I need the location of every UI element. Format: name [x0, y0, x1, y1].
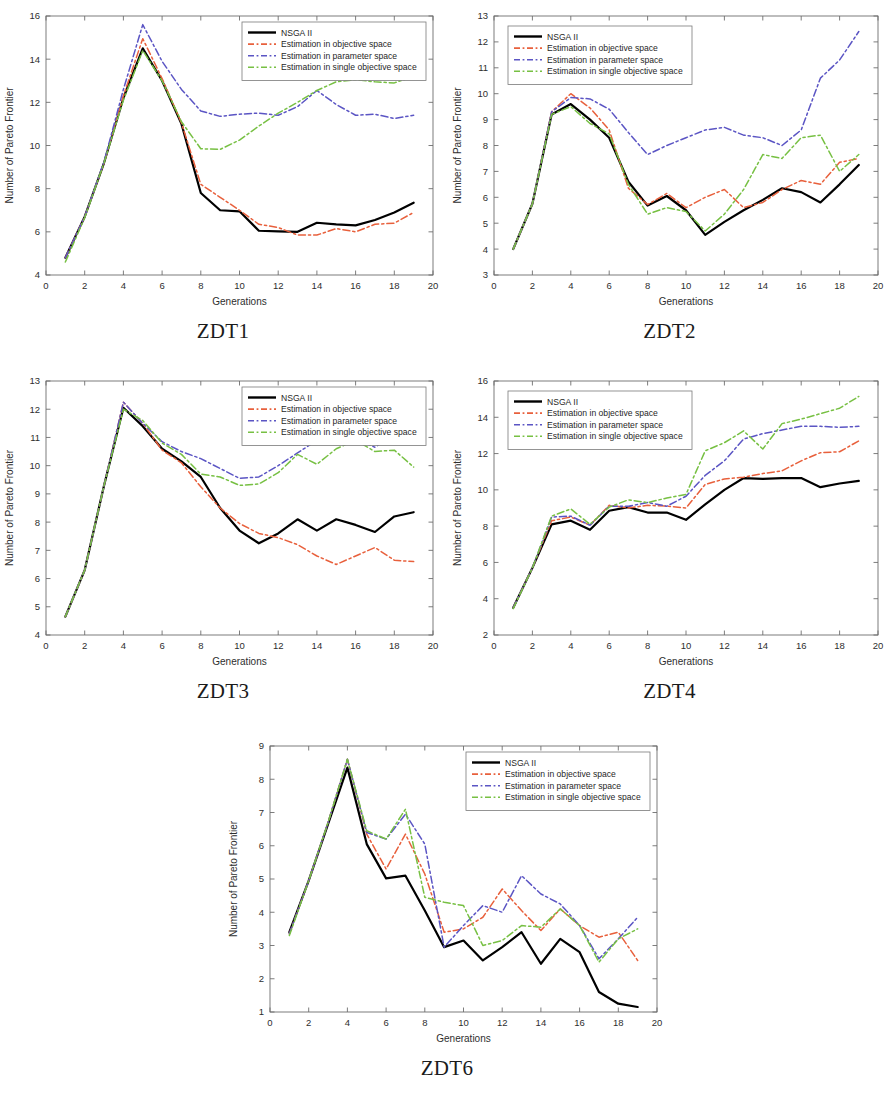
y-tick-label: 8	[35, 183, 40, 194]
figure-grid: 0246810121416182046810121416GenerationsN…	[0, 0, 891, 1106]
y-tick-label: 5	[259, 873, 264, 884]
caption-zdt1: ZDT1	[0, 319, 446, 344]
x-tick-label: 8	[198, 280, 203, 291]
y-tick-label: 6	[259, 840, 264, 851]
y-tick-label: 6	[35, 226, 40, 237]
x-tick-label: 16	[350, 280, 361, 291]
x-tick-label: 2	[82, 640, 87, 651]
y-tick-label: 12	[477, 448, 488, 459]
x-tick-label: 8	[422, 1017, 427, 1028]
x-tick-label: 0	[267, 1017, 272, 1028]
y-tick-label: 14	[477, 412, 488, 423]
y-tick-label: 4	[35, 269, 40, 280]
x-tick-label: 16	[350, 640, 361, 651]
y-tick-label: 2	[483, 629, 488, 640]
x-tick-label: 4	[121, 640, 126, 651]
y-axis-title: Number of Pareto Frontier	[4, 87, 15, 204]
y-tick-label: 6	[483, 557, 488, 568]
chart-legend: NSGA IIEstimation in objective spaceEsti…	[242, 22, 426, 80]
y-tick-label: 7	[483, 166, 488, 177]
x-tick-label: 8	[198, 640, 203, 651]
x-axis-title: Generations	[659, 296, 713, 307]
chart-panel-zdt2: 02468101214161820345678910111213Generati…	[448, 2, 891, 362]
chart-legend: NSGA IIEstimation in objective spaceEsti…	[508, 26, 692, 84]
y-tick-label: 13	[29, 375, 40, 386]
x-tick-label: 4	[568, 280, 573, 291]
legend-label-0: NSGA II	[547, 397, 578, 407]
chart-svg-zdt2: 02468101214161820345678910111213Generati…	[448, 2, 891, 317]
x-tick-label: 12	[273, 280, 284, 291]
legend-label-0: NSGA II	[547, 32, 578, 42]
caption-zdt2: ZDT2	[448, 319, 891, 344]
plot-area-zdt1: 0246810121416182046810121416GenerationsN…	[0, 2, 446, 317]
y-tick-label: 9	[35, 488, 40, 499]
y-tick-label: 3	[259, 940, 264, 951]
x-tick-label: 18	[389, 280, 400, 291]
x-tick-label: 14	[536, 1017, 547, 1028]
x-tick-label: 20	[428, 280, 439, 291]
y-tick-label: 11	[30, 432, 40, 443]
x-tick-label: 10	[234, 640, 245, 651]
y-tick-label: 7	[35, 545, 40, 556]
y-tick-label: 12	[29, 404, 40, 415]
x-tick-label: 0	[491, 640, 496, 651]
chart-panel-zdt3: 0246810121416182045678910111213Generatio…	[0, 367, 446, 722]
x-tick-label: 10	[234, 280, 245, 291]
plot-area-zdt6: 02468101214161820123456789GenerationsNum…	[224, 732, 670, 1054]
caption-zdt3: ZDT3	[0, 679, 446, 704]
x-tick-label: 2	[82, 280, 87, 291]
x-tick-label: 4	[345, 1017, 350, 1028]
x-tick-label: 0	[43, 280, 48, 291]
y-tick-label: 4	[483, 244, 488, 255]
y-tick-label: 8	[483, 521, 488, 532]
x-axis-title: Generations	[212, 656, 266, 667]
legend-label-2: Estimation in parameter space	[505, 781, 621, 791]
x-tick-label: 20	[428, 640, 439, 651]
legend-label-1: Estimation in objective space	[281, 404, 392, 414]
y-tick-label: 14	[29, 54, 40, 65]
y-tick-label: 5	[35, 601, 40, 612]
x-tick-label: 16	[796, 280, 807, 291]
x-tick-label: 10	[458, 1017, 469, 1028]
chart-svg-zdt1: 0246810121416182046810121416GenerationsN…	[0, 2, 446, 317]
y-tick-label: 7	[259, 807, 264, 818]
x-tick-label: 12	[497, 1017, 508, 1028]
y-tick-label: 16	[29, 10, 40, 21]
y-tick-label: 8	[35, 517, 40, 528]
x-tick-label: 4	[568, 640, 573, 651]
chart-legend: NSGA IIEstimation in objective spaceEsti…	[242, 387, 426, 445]
legend-label-3: Estimation in single objective space	[505, 792, 641, 802]
legend-label-2: Estimation in parameter space	[281, 416, 397, 426]
y-tick-label: 4	[483, 593, 488, 604]
legend-label-2: Estimation in parameter space	[547, 55, 663, 65]
y-tick-label: 6	[35, 573, 40, 584]
legend-label-1: Estimation in objective space	[547, 408, 658, 418]
y-tick-label: 1	[259, 1006, 264, 1017]
y-axis-title: Number of Pareto Frontier	[228, 820, 239, 937]
y-tick-label: 10	[29, 140, 40, 151]
x-tick-label: 2	[530, 280, 535, 291]
y-tick-label: 9	[259, 740, 264, 751]
plot-area-zdt4: 02468101214161820246810121416Generations…	[448, 367, 891, 677]
legend-label-3: Estimation in single objective space	[547, 431, 683, 441]
x-axis-title: Generations	[659, 656, 713, 667]
y-tick-label: 10	[29, 460, 40, 471]
x-tick-label: 8	[645, 640, 650, 651]
x-tick-label: 10	[681, 640, 692, 651]
x-tick-label: 6	[159, 280, 164, 291]
plot-area-zdt2: 02468101214161820345678910111213Generati…	[448, 2, 891, 317]
x-axis-title: Generations	[436, 1033, 490, 1044]
chart-legend: NSGA IIEstimation in objective spaceEsti…	[466, 752, 650, 810]
y-tick-label: 13	[477, 10, 488, 21]
legend-label-3: Estimation in single objective space	[281, 427, 417, 437]
y-tick-label: 4	[259, 907, 264, 918]
x-tick-label: 10	[681, 280, 692, 291]
x-tick-label: 14	[758, 640, 769, 651]
x-tick-label: 0	[43, 640, 48, 651]
x-tick-label: 8	[645, 280, 650, 291]
x-tick-label: 20	[652, 1017, 663, 1028]
legend-label-0: NSGA II	[281, 393, 312, 403]
chart-panel-zdt6: 02468101214161820123456789GenerationsNum…	[224, 732, 670, 1102]
y-tick-label: 3	[483, 269, 488, 280]
y-axis-title: Number of Pareto Frontier	[452, 449, 463, 566]
